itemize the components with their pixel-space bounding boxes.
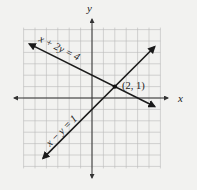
- intersection-label: (2, 1): [122, 80, 145, 92]
- y-axis-label: y: [86, 2, 92, 14]
- coordinate-plane: x y x + 2y = 4 x − y = 1 (2, 1): [0, 0, 197, 190]
- line-x-minus-y-eq-1: [43, 47, 155, 159]
- intersection-point: [113, 84, 117, 88]
- axes: x y: [14, 2, 183, 178]
- intersection: (2, 1): [113, 80, 146, 92]
- x-axis-label: x: [177, 92, 183, 104]
